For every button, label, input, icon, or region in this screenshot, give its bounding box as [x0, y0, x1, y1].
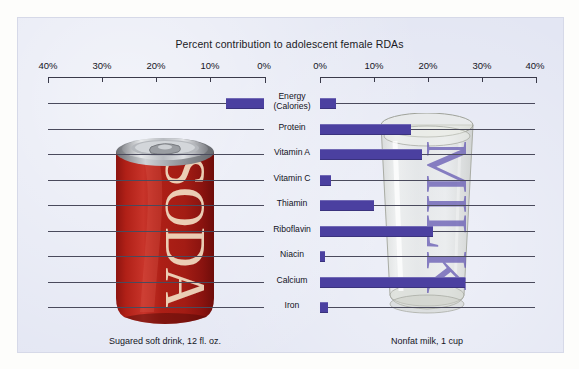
left-axis-rule — [48, 77, 266, 83]
right-axis-tick-40: 40% — [525, 60, 544, 71]
chart-row: Calcium — [0, 282, 579, 283]
chart-row: Vitamin A — [0, 154, 579, 155]
caption-soda: Sugared soft drink, 12 fl. oz. — [109, 336, 221, 346]
chart-row: Iron — [0, 307, 579, 308]
left-axis-tick-10: 10% — [200, 60, 219, 71]
leader-line-right — [328, 307, 535, 308]
leader-line-right — [422, 154, 535, 155]
soda-can-illustration: SODA — [110, 122, 220, 325]
chart-row: Protein — [0, 129, 579, 130]
right-axis-tickmark-20 — [428, 77, 429, 82]
leader-line-right — [433, 231, 535, 232]
leader-line-right — [411, 129, 535, 130]
leader-line-left — [48, 307, 264, 308]
chart-row: Thiamin — [0, 205, 579, 206]
leader-line-right — [325, 256, 535, 257]
right-axis-tickmark-10 — [374, 77, 375, 82]
leader-line-left — [48, 180, 264, 181]
chart-row: Niacin — [0, 256, 579, 257]
leader-line-left — [48, 205, 264, 206]
leader-line-right — [336, 103, 535, 104]
leader-line-left — [48, 256, 264, 257]
category-label: Riboflavin — [265, 225, 319, 235]
bar-right — [320, 277, 465, 288]
right-axis-tickmark-30 — [482, 77, 483, 82]
leader-line-right — [465, 282, 535, 283]
category-label: Thiamin — [265, 199, 319, 209]
category-label: Protein — [265, 123, 319, 133]
leader-line-left — [48, 154, 264, 155]
bar-right — [320, 200, 374, 211]
right-axis-tick-30: 30% — [472, 60, 491, 71]
right-axis-tick-0: 0% — [313, 60, 327, 71]
chart-row: Vitamin C — [0, 180, 579, 181]
leader-line-left — [48, 282, 264, 283]
bar-right — [320, 98, 336, 109]
category-label: Calcium — [265, 276, 319, 286]
bar-right — [320, 226, 433, 237]
category-label: Vitamin A — [265, 148, 319, 158]
bar-right — [320, 175, 331, 186]
left-axis-tick-20: 20% — [146, 60, 165, 71]
category-label: Vitamin C — [265, 174, 319, 184]
leader-line-right — [331, 180, 535, 181]
chart-row: Riboflavin — [0, 231, 579, 232]
left-axis-tick-30: 30% — [92, 60, 111, 71]
leader-line-right — [374, 205, 535, 206]
left-axis-tickmark-20 — [156, 77, 157, 82]
left-axis-tick-0: 0% — [257, 60, 271, 71]
bar-right — [320, 302, 328, 313]
bar-right — [320, 124, 411, 135]
milk-glass-label: MILK — [414, 140, 480, 293]
caption-milk: Nonfat milk, 1 cup — [391, 336, 463, 346]
category-label: Iron — [265, 301, 319, 311]
bar-right — [320, 149, 422, 160]
left-axis-tickmark-10 — [210, 77, 211, 82]
chart-row: Energy (Calories) — [0, 103, 579, 104]
right-axis-tick-10: 10% — [364, 60, 383, 71]
category-label: Energy (Calories) — [265, 92, 319, 111]
leader-line-left — [48, 231, 264, 232]
chart-title: Percent contribution to adolescent femal… — [0, 38, 579, 50]
left-axis-tick-40: 40% — [38, 60, 57, 71]
left-axis-tickmark-30 — [102, 77, 103, 82]
right-axis-tick-20: 20% — [418, 60, 437, 71]
chart-figure: SODA MILK — [0, 0, 579, 369]
leader-line-left — [48, 103, 226, 104]
category-label: Niacin — [265, 250, 319, 260]
leader-line-left — [48, 129, 264, 130]
bar-left — [226, 98, 264, 109]
